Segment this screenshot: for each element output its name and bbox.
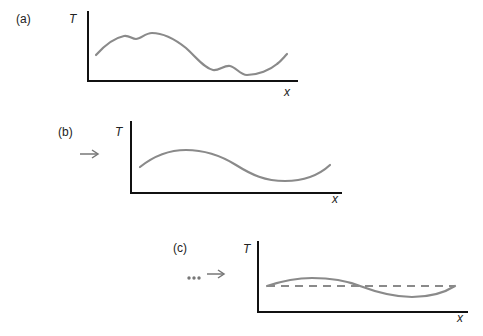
panel-label-a: (a) bbox=[16, 12, 31, 26]
x-axis-label-c: x bbox=[456, 311, 464, 325]
panel-a: (a) T x bbox=[16, 11, 298, 99]
y-axis-label-c: T bbox=[243, 242, 252, 256]
y-axis-label-b: T bbox=[115, 125, 124, 139]
diagram-canvas: (a) T x (b) T x (c) T x bbox=[0, 0, 483, 336]
panel-c: (c) T x bbox=[173, 241, 468, 325]
panel-label-b: (b) bbox=[58, 125, 73, 139]
panel-label-c: (c) bbox=[173, 241, 187, 255]
panel-b: (b) T x bbox=[58, 121, 342, 206]
x-axis-label-b: x bbox=[331, 192, 339, 206]
y-axis-label-a: T bbox=[69, 12, 78, 26]
ellipsis-icon-c bbox=[187, 276, 200, 279]
temperature-curve-b bbox=[140, 150, 330, 181]
x-axis-label-a: x bbox=[283, 85, 291, 99]
axes-c bbox=[258, 241, 468, 312]
temperature-curve-c bbox=[267, 278, 455, 297]
temperature-curve-a bbox=[96, 33, 287, 75]
axes-b bbox=[131, 121, 342, 193]
